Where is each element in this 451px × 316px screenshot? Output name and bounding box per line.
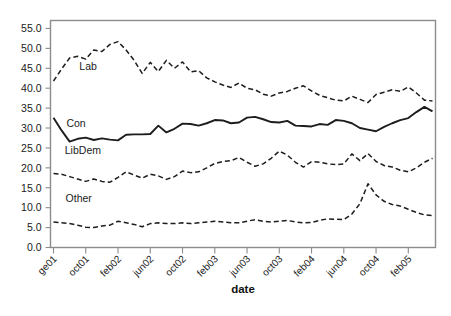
y-tick-label: 30.0 (21, 122, 42, 134)
series-label-other: Other (66, 192, 93, 204)
x-tick-label: oct03 (260, 253, 285, 278)
series-label-libdem: LibDem (65, 144, 101, 156)
y-tick-label: 10.0 (21, 201, 42, 213)
y-tick-label: 0.0 (27, 241, 42, 253)
plot-frame (51, 21, 436, 248)
x-tick-label: feb04 (291, 253, 317, 279)
y-tick-label: 15.0 (21, 182, 42, 194)
x-tick-label: jun04 (323, 253, 349, 279)
series-line-lab (54, 42, 433, 103)
x-tick-label: oct04 (356, 253, 381, 278)
x-tick-label: feb02 (98, 253, 124, 279)
x-tick-label: oct02 (163, 253, 188, 278)
y-tick-label: 5.0 (27, 221, 42, 233)
y-tick-label: 50.0 (21, 42, 42, 54)
y-tick-label: 55.0 (21, 22, 42, 34)
series-line-other (54, 184, 433, 228)
x-axis-title: date (231, 283, 255, 295)
series-inline-labels: LabConLibDemOther (65, 60, 101, 205)
x-tick-label: feb05 (388, 253, 414, 279)
y-tick-label: 40.0 (21, 82, 42, 94)
y-tick-label: 45.0 (21, 62, 42, 74)
x-tick-label: jun02 (130, 253, 156, 279)
poll-trend-line-chart: 0.05.010.015.020.025.030.035.040.045.050… (0, 0, 451, 316)
series-line-con (54, 107, 433, 142)
figure-container: 0.05.010.015.020.025.030.035.040.045.050… (0, 0, 451, 316)
y-tick-label: 35.0 (21, 102, 42, 114)
y-tick-label: 20.0 (21, 162, 42, 174)
series-layer (54, 42, 433, 228)
series-line-libdem (54, 151, 433, 182)
x-tick-label: ge01 (35, 253, 59, 277)
y-axis: 0.05.010.015.020.025.030.035.040.045.050… (21, 22, 50, 253)
y-tick-label: 25.0 (21, 142, 42, 154)
x-tick-label: feb03 (195, 253, 221, 279)
x-axis: ge01oct01feb02jun02oct02feb03jun03oct03f… (35, 248, 414, 279)
series-label-lab: Lab (79, 60, 97, 72)
x-tick-label: oct01 (66, 253, 91, 278)
series-label-con: Con (66, 117, 85, 129)
x-tick-label: jun03 (227, 253, 253, 279)
